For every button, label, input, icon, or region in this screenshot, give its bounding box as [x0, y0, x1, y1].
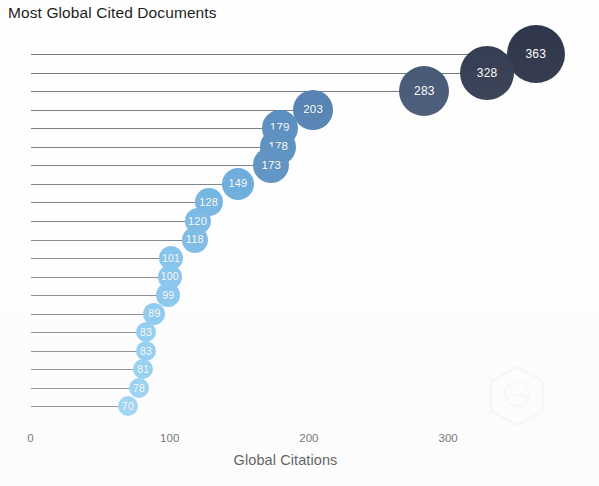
lollipop-stem: [31, 295, 162, 296]
x-axis-tick-label: 300: [439, 432, 458, 444]
x-axis-title: Global Citations: [0, 452, 599, 468]
lollipop-stem: [31, 202, 202, 203]
lollipop-stem: [31, 240, 188, 241]
data-bubble[interactable]: 81: [133, 359, 153, 379]
bubble-value-label: 89: [148, 308, 160, 319]
bubble-value-label: 70: [122, 401, 134, 412]
lollipop-stem: [31, 314, 149, 315]
bubble-value-label: 81: [137, 364, 149, 375]
lollipop-stem: [31, 91, 411, 92]
bubble-value-label: 128: [199, 196, 218, 207]
bubble-value-label: 203: [303, 103, 323, 115]
bubble-value-label: 363: [525, 48, 546, 60]
x-axis-tick-label: 0: [27, 432, 33, 444]
x-axis-tick-label: 200: [299, 432, 318, 444]
lollipop-stem: [31, 388, 134, 389]
bubble-value-label: 83: [140, 327, 152, 338]
bubble-value-label: 173: [261, 159, 281, 171]
x-axis-title-label: Global Citations: [234, 452, 338, 468]
lollipop-stem: [31, 54, 520, 55]
data-bubble[interactable]: 99: [156, 283, 180, 307]
data-bubble[interactable]: 83: [136, 341, 156, 361]
bubble-value-label: 120: [188, 215, 207, 226]
lollipop-stem: [31, 369, 138, 370]
data-bubble[interactable]: 173: [253, 147, 289, 183]
bubble-value-label: 328: [477, 66, 498, 78]
lollipop-stem: [31, 406, 123, 407]
hexagon-watermark: [487, 365, 547, 427]
data-bubble[interactable]: 78: [129, 378, 149, 398]
lollipop-stem: [31, 165, 262, 166]
lollipop-stem: [31, 147, 269, 148]
chart-root: Most Global Cited Documents 363328283203…: [0, 0, 599, 486]
bubble-value-label: 99: [162, 289, 174, 300]
lollipop-stem: [31, 128, 270, 129]
lollipop-stem: [31, 258, 165, 259]
bubble-value-label: 83: [140, 345, 152, 356]
lollipop-stem: [31, 332, 141, 333]
data-bubble[interactable]: 203: [293, 90, 333, 130]
lollipop-stem: [31, 351, 141, 352]
data-bubble[interactable]: 363: [507, 25, 565, 83]
data-bubble[interactable]: 149: [222, 168, 254, 200]
bubble-value-label: 78: [133, 382, 145, 393]
bubble-value-label: 101: [162, 252, 180, 263]
x-axis-tick-label: 100: [160, 432, 179, 444]
lollipop-stem: [31, 277, 164, 278]
bubble-value-label: 283: [414, 85, 435, 97]
data-bubble[interactable]: 328: [460, 46, 514, 100]
bubble-value-label: 149: [228, 178, 247, 189]
bubble-value-label: 100: [161, 271, 179, 282]
bubble-value-label: 118: [186, 234, 204, 245]
lollipop-stem: [31, 184, 230, 185]
data-bubble[interactable]: 283: [399, 66, 449, 116]
lollipop-stem: [31, 221, 191, 222]
data-bubble[interactable]: 70: [118, 396, 138, 416]
data-bubble[interactable]: 118: [182, 227, 208, 253]
plot-area: 3633282832031791781731491281201181011009…: [0, 0, 599, 430]
data-bubble[interactable]: 83: [136, 322, 156, 342]
lollipop-stem: [31, 110, 303, 111]
